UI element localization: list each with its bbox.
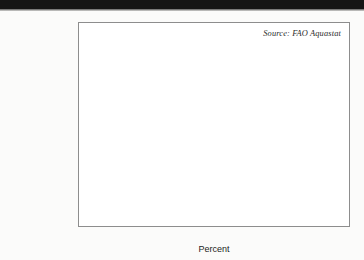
bars-container	[79, 23, 349, 226]
x-axis-title: Percent	[198, 244, 229, 254]
source-annotation: Source: FAO Aquastat	[263, 29, 341, 38]
category-label-column	[0, 22, 74, 227]
plot-area: Source: FAO Aquastat	[78, 22, 350, 227]
chart-figure: Source: FAO Aquastat Percent	[0, 0, 364, 260]
x-axis: Percent	[78, 227, 350, 260]
scan-edge-artifact	[0, 0, 364, 9]
